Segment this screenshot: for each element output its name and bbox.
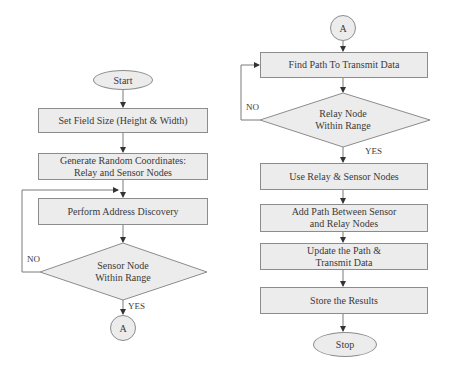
no-label: NO bbox=[246, 102, 259, 112]
address-discovery-step: Perform Address Discovery bbox=[38, 198, 208, 225]
step-label: Store the Results bbox=[310, 295, 378, 307]
stop-label: Stop bbox=[336, 339, 354, 350]
find-path-step: Find Path To Transmit Data bbox=[260, 52, 428, 78]
start-label: Start bbox=[114, 75, 133, 86]
decision-label-line2: Within Range bbox=[293, 120, 393, 132]
step-label: Use Relay & Sensor Nodes bbox=[289, 171, 398, 183]
step-label: Find Path To Transmit Data bbox=[289, 59, 400, 71]
step-label-line1: Add Path Between Sensor bbox=[292, 206, 397, 218]
connector-a-right: A bbox=[330, 15, 356, 41]
start-terminal: Start bbox=[93, 70, 153, 90]
step-label-line2: Relay and Sensor Nodes bbox=[74, 167, 172, 179]
step-label: Set Field Size (Height & Width) bbox=[58, 115, 187, 127]
stop-terminal: Stop bbox=[313, 332, 377, 357]
no-label: NO bbox=[27, 254, 40, 264]
decision-label-line1: Relay Node bbox=[293, 108, 393, 120]
step-label-line2: Transmit Data bbox=[315, 257, 372, 269]
decision-label-line1: Sensor Node bbox=[73, 260, 173, 272]
connector-a-left: A bbox=[110, 315, 136, 341]
yes-label: YES bbox=[128, 301, 145, 311]
use-relay-sensor-step: Use Relay & Sensor Nodes bbox=[260, 163, 428, 190]
store-results-step: Store the Results bbox=[260, 287, 428, 314]
update-path-step: Update the Path & Transmit Data bbox=[260, 243, 428, 270]
decision-label-line2: Within Range bbox=[73, 272, 173, 284]
relay-node-decision: Relay Node Within Range bbox=[293, 108, 393, 132]
step-label-line2: and Relay Nodes bbox=[310, 218, 378, 230]
connector-label: A bbox=[339, 23, 346, 34]
step-label-line1: Generate Random Coordinates: bbox=[60, 155, 186, 167]
step-label: Perform Address Discovery bbox=[67, 206, 178, 218]
step-label-line1: Update the Path & bbox=[307, 245, 381, 257]
set-field-size-step: Set Field Size (Height & Width) bbox=[38, 108, 208, 133]
sensor-node-decision: Sensor Node Within Range bbox=[73, 260, 173, 284]
yes-label: YES bbox=[365, 146, 382, 156]
add-path-step: Add Path Between Sensor and Relay Nodes bbox=[260, 204, 428, 232]
generate-coordinates-step: Generate Random Coordinates: Relay and S… bbox=[38, 153, 208, 180]
connector-label: A bbox=[119, 323, 126, 334]
